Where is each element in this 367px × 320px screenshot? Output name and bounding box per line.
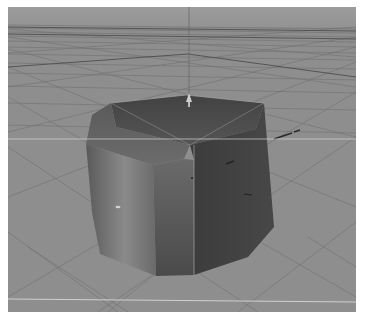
specular-highlight xyxy=(116,206,121,208)
horizon-band xyxy=(8,7,356,27)
3d-viewport[interactable] xyxy=(8,7,356,312)
beveled-cube[interactable] xyxy=(86,95,274,276)
viewport-canvas[interactable] xyxy=(8,7,356,312)
surface-mark xyxy=(191,177,193,179)
cube-front-face[interactable] xyxy=(153,159,194,276)
bottom-guide-line xyxy=(8,299,356,302)
cube-left-face[interactable] xyxy=(86,144,156,276)
